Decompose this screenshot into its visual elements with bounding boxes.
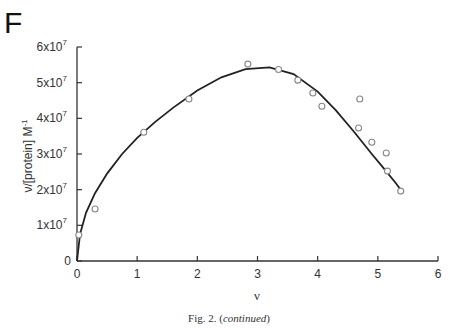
y-tick-label: 2x107: [37, 181, 68, 197]
x-tick-label: 5: [374, 267, 381, 281]
data-point: [186, 96, 192, 102]
axes: 012345601x1072x1073x1074x1075x1076x107: [37, 38, 442, 281]
data-point: [92, 206, 98, 212]
fit-curve: [77, 67, 401, 261]
data-point: [141, 129, 147, 135]
caption-prefix: Fig. 2. (: [188, 312, 223, 324]
y-tick-label: 6x107: [37, 38, 68, 54]
y-tick-label: 4x107: [37, 109, 68, 125]
y-tick-label: 5x107: [37, 74, 68, 90]
svg-text:ν/[protein] M-1: ν/[protein] M-1: [20, 119, 35, 193]
y-tick-label: 0: [64, 254, 71, 268]
x-tick-label: 2: [194, 267, 201, 281]
data-point: [319, 103, 325, 109]
caption-suffix: ): [266, 312, 270, 324]
data-point: [76, 232, 82, 238]
x-tick-label: 0: [74, 267, 81, 281]
data-point: [356, 125, 362, 131]
figure-caption: Fig. 2. (continued): [0, 312, 458, 324]
x-tick-label: 1: [134, 267, 141, 281]
caption-italic: continued: [223, 312, 266, 324]
data-point: [276, 66, 282, 72]
y-axis-title: ν/[protein] M-1: [20, 119, 35, 193]
x-tick-label: 3: [254, 267, 261, 281]
y-tick-label: 3x107: [37, 145, 68, 161]
chart: 012345601x1072x1073x1074x1075x1076x107 ν…: [0, 0, 458, 310]
data-point: [245, 61, 251, 67]
data-point: [295, 77, 301, 83]
data-point: [383, 150, 389, 156]
data-point: [369, 139, 375, 145]
y-tick-label: 1x107: [37, 216, 68, 232]
data-points: [76, 61, 404, 238]
data-point: [310, 90, 316, 96]
data-point: [357, 96, 363, 102]
x-tick-label: 4: [314, 267, 321, 281]
x-axis-title: ν: [254, 288, 260, 303]
data-point: [384, 168, 390, 174]
data-point: [398, 188, 404, 194]
x-tick-label: 6: [435, 267, 442, 281]
